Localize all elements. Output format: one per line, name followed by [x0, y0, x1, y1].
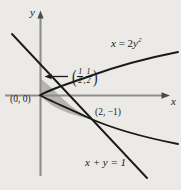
fraction-y-numerator: 1	[86, 68, 92, 76]
line-curve	[12, 34, 147, 178]
x-axis-label: x	[171, 96, 176, 107]
origin-point-label: (0, 0)	[10, 95, 31, 105]
fraction-y: 12	[86, 68, 92, 86]
parabola-equation-label: x = 2y2	[111, 37, 142, 49]
fraction-y-denominator: 2	[86, 77, 92, 85]
figure-canvas: y x x = 2y2 x + y = 1 (0, 0) (2, −1) (12…	[0, 0, 181, 190]
intersection-upper-label: (12,12)	[71, 68, 98, 86]
open-paren: (	[72, 69, 77, 85]
intersection-lower-label: (2, −1)	[95, 108, 121, 118]
close-paren: )	[92, 69, 97, 85]
line-equation-label: x + y = 1	[85, 157, 126, 168]
y-axis-label: y	[30, 7, 35, 18]
y-axis-arrowhead	[37, 11, 43, 19]
annotation-arrowhead	[45, 74, 52, 79]
x-axis-arrowhead	[162, 92, 171, 98]
parabola-eq-exponent: 2	[138, 36, 142, 44]
parabola-eq-sign: = 2	[116, 37, 133, 49]
